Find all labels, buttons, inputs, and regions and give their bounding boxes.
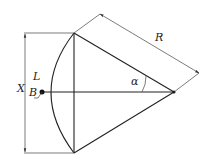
r-ext-bottom	[174, 73, 199, 92]
radius-lower	[74, 92, 174, 153]
label-l: L	[32, 70, 40, 83]
label-alpha: α	[131, 75, 139, 88]
label-b: B	[28, 86, 37, 99]
arc-geometry-diagram: R α L X B	[0, 0, 213, 167]
label-x: X	[16, 82, 26, 95]
alpha-angle-arc	[142, 76, 146, 92]
r-dimension-line	[100, 14, 199, 73]
label-r: R	[154, 31, 163, 44]
arc-curve	[51, 33, 74, 153]
r-ext-top	[74, 14, 100, 33]
